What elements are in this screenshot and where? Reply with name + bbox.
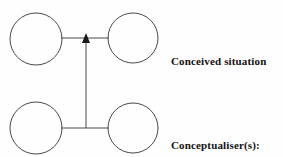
circle-bottom-left [10,102,62,154]
diagram-canvas: Conceived situation Conceptualiser(s): w… [0,0,283,157]
circle-top-left [10,13,62,65]
label-conceptualisers: Conceptualiser(s): writer and reader [171,113,260,157]
label-conceived-situation-line1: Conceived situation [171,55,266,68]
circle-bottom-right [108,103,158,153]
label-conceptualisers-line1: Conceptualiser(s): [171,139,260,152]
label-conceived-situation: Conceived situation [171,29,266,94]
circle-top-right [108,13,158,63]
